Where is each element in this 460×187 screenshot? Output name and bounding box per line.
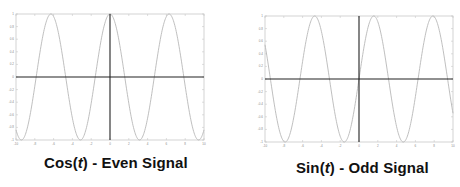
x-tick-label: -4 <box>320 144 323 148</box>
y-tick-label: 0.8 <box>259 27 264 31</box>
y-tick-label: 0 <box>261 77 263 81</box>
caption-suffix: ) - Odd Signal <box>330 159 429 176</box>
x-tick-label: 2 <box>377 144 379 148</box>
sin-caption: Sin(t) - Odd Signal <box>296 159 429 176</box>
y-tick-label: 0.4 <box>259 52 264 56</box>
y-tick-label: -0.4 <box>258 102 264 106</box>
x-tick-label: 10 <box>451 144 455 148</box>
x-tick-label: -2 <box>339 144 342 148</box>
y-tick-label: -0.8 <box>258 127 264 131</box>
x-tick-label: 8 <box>433 144 435 148</box>
x-tick-label: -10 <box>263 144 268 148</box>
x-tick-label: -8 <box>282 144 285 148</box>
y-tick-label: -0.2 <box>258 90 264 94</box>
x-tick-label: 0 <box>358 144 360 148</box>
x-tick-label: 4 <box>396 144 398 148</box>
y-tick-label: 0.2 <box>259 64 264 68</box>
y-tick-label: -1 <box>260 140 263 144</box>
x-tick-label: 6 <box>415 144 417 148</box>
sin-plot-panel: -10-8-6-4-20246810-1-0.8-0.6-0.4-0.200.2… <box>0 0 460 187</box>
y-tick-label: 0.6 <box>259 39 264 43</box>
caption-prefix: Sin( <box>296 159 325 176</box>
y-tick-label: -0.6 <box>258 115 264 119</box>
y-tick-label: 1 <box>261 14 263 18</box>
x-tick-label: -6 <box>301 144 304 148</box>
